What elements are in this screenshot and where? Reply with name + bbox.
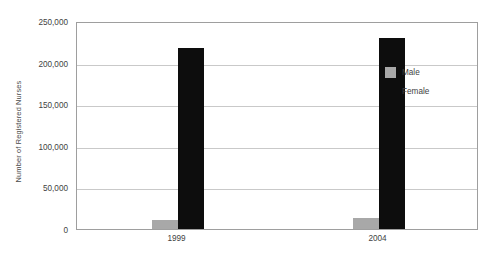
y-axis-tick-label: 200,000 bbox=[38, 59, 68, 68]
y-axis-tick-label: 0 bbox=[63, 226, 68, 235]
legend-swatch-icon bbox=[385, 67, 396, 78]
y-axis-title-label: Number of Registered Nurses bbox=[15, 81, 24, 183]
y-axis-tick-labels: 050,000100,000150,000200,000250,000 bbox=[24, 22, 72, 230]
legend-entry-female: Female bbox=[385, 83, 429, 99]
chart-legend: MaleFemale bbox=[385, 64, 429, 102]
legend-swatch-icon bbox=[385, 86, 396, 97]
bar-group bbox=[353, 23, 405, 229]
bar-female-1999 bbox=[178, 48, 204, 229]
y-axis-tick-label: 100,000 bbox=[38, 142, 68, 151]
bar-male-1999 bbox=[152, 220, 178, 229]
x-axis-tick-label: 2004 bbox=[368, 234, 386, 243]
bars-layer bbox=[77, 23, 477, 229]
y-axis-tick-label: 50,000 bbox=[43, 184, 68, 193]
plot-area bbox=[76, 22, 478, 230]
y-axis-tick-label: 250,000 bbox=[38, 18, 68, 27]
bar-chart: Number of Registered Nurses 050,000100,0… bbox=[0, 0, 493, 263]
y-axis-tick-label: 150,000 bbox=[38, 101, 68, 110]
bar-group bbox=[152, 23, 204, 229]
x-axis-tick-labels: 19992004 bbox=[76, 234, 478, 250]
bar-male-2004 bbox=[353, 218, 379, 229]
x-axis-tick-label: 1999 bbox=[167, 234, 185, 243]
legend-label: Male bbox=[402, 68, 420, 77]
legend-entry-male: Male bbox=[385, 64, 429, 80]
legend-label: Female bbox=[402, 87, 429, 96]
